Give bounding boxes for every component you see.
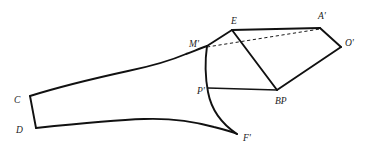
label-E: E: [230, 16, 237, 26]
diagram-canvas: C D M' E A' O' P' BP F': [0, 0, 367, 157]
label-P-prime: P': [196, 86, 206, 96]
label-C: C: [14, 95, 21, 105]
label-F-prime: F': [242, 133, 252, 143]
label-M-prime: M': [188, 39, 200, 49]
label-A-prime: A': [317, 11, 327, 21]
label-BP: BP: [275, 96, 287, 106]
label-D: D: [15, 125, 23, 135]
technical-line-diagram: C D M' E A' O' P' BP F': [0, 0, 367, 157]
canvas-background: [0, 0, 367, 157]
label-O-prime: O': [345, 38, 355, 48]
